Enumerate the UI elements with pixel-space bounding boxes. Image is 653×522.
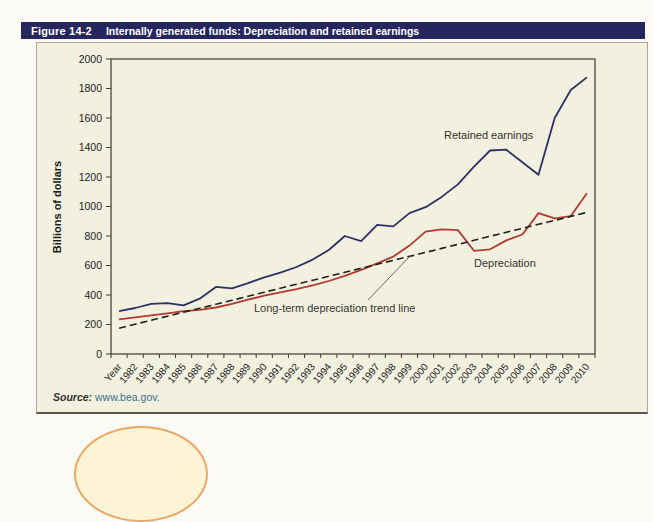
trend-label: Long-term depreciation trend line [254,302,415,314]
figure-panel: 0200400600800100012001400160018002000Yea… [36,42,648,414]
figure-number: Figure 14-2 [31,25,92,37]
source-link[interactable]: www.bea.gov. [95,391,160,403]
y-tick-label: 1000 [79,200,103,212]
y-tick-label: 1400 [79,141,103,153]
y-tick-label: 1200 [79,171,103,183]
y-tick-label: 800 [84,230,102,242]
x-tick-label: 2010 [569,361,592,385]
y-axis-title: Billions of dollars [51,161,63,253]
retained-earnings-label: Retained earnings [444,129,534,141]
y-tick-label: 2000 [79,53,103,65]
y-tick-label: 1600 [79,112,103,124]
y-tick-label: 400 [84,289,102,301]
y-tick-label: 200 [84,318,102,330]
source-line: Source: www.bea.gov. [53,391,160,403]
y-tick-label: 0 [96,348,102,360]
y-tick-label: 1800 [79,82,103,94]
figure-title-bar: Figure 14-2 Internally generated funds: … [21,22,645,39]
series-retained-earnings [119,77,587,311]
figure-title: Internally generated funds: Depreciation… [106,25,419,37]
y-tick-label: 600 [84,259,102,271]
source-label: Source: [53,391,92,403]
depreciation-label: Depreciation [474,257,536,269]
decorative-circle [74,426,208,522]
line-chart: 0200400600800100012001400160018002000Yea… [37,43,649,403]
